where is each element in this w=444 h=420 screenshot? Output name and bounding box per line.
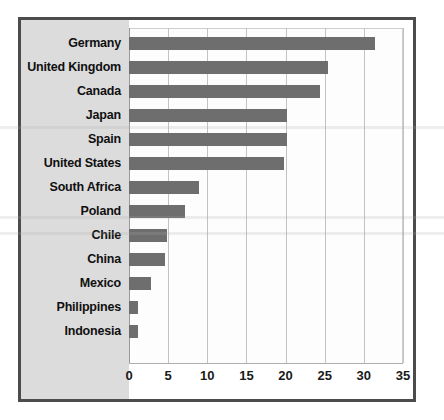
bar <box>129 253 165 266</box>
x-tick-label: 35 <box>383 368 423 383</box>
category-label: Spain <box>21 132 121 146</box>
bar <box>129 205 185 218</box>
bar-row: Canada <box>21 80 413 104</box>
bar <box>129 325 138 338</box>
chart-body: GermanyUnited KingdomCanadaJapanSpainUni… <box>21 20 413 399</box>
bar <box>129 37 375 50</box>
x-tick-label: 20 <box>266 368 306 383</box>
bar <box>129 301 138 314</box>
bar <box>129 61 328 74</box>
category-label: South Africa <box>21 180 121 194</box>
bar-row: United Kingdom <box>21 56 413 80</box>
category-label: Indonesia <box>21 324 121 338</box>
x-tick-label: 10 <box>187 368 227 383</box>
category-label: China <box>21 252 121 266</box>
bar-row: Japan <box>21 104 413 128</box>
category-label: United Kingdom <box>21 60 121 74</box>
bar-row: Poland <box>21 200 413 224</box>
bar-row: Spain <box>21 128 413 152</box>
bar <box>129 229 167 242</box>
bar-row: China <box>21 248 413 272</box>
x-tick-label: 5 <box>148 368 188 383</box>
bar <box>129 85 320 98</box>
chart-frame: GermanyUnited KingdomCanadaJapanSpainUni… <box>18 17 416 402</box>
category-label: United States <box>21 156 121 170</box>
bar-row: Germany <box>21 32 413 56</box>
bar <box>129 157 284 170</box>
bar <box>129 133 287 146</box>
bar <box>129 109 287 122</box>
bar-row: United States <box>21 152 413 176</box>
category-label: Japan <box>21 108 121 122</box>
x-tick-label: 15 <box>226 368 266 383</box>
category-label: Poland <box>21 204 121 218</box>
bar-row: Philippines <box>21 296 413 320</box>
chart-figure: GermanyUnited KingdomCanadaJapanSpainUni… <box>0 0 444 420</box>
category-label: Mexico <box>21 276 121 290</box>
x-axis-line <box>129 363 403 364</box>
x-tick-label: 0 <box>109 368 149 383</box>
category-label: Philippines <box>21 300 121 314</box>
category-label: Canada <box>21 84 121 98</box>
bar-row: Mexico <box>21 272 413 296</box>
bar-row: Indonesia <box>21 320 413 344</box>
bar-row: South Africa <box>21 176 413 200</box>
x-tick-label: 30 <box>344 368 384 383</box>
bar <box>129 277 151 290</box>
category-label: Germany <box>21 36 121 50</box>
category-label: Chile <box>21 228 121 242</box>
bar-row: Chile <box>21 224 413 248</box>
x-tick-label: 25 <box>305 368 345 383</box>
bar <box>129 181 199 194</box>
